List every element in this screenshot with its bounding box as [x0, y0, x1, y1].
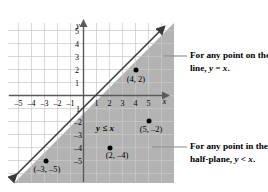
x-axis-label: x — [162, 96, 167, 106]
data-point-neg3-neg5 — [44, 159, 49, 164]
xtick-3: 3 — [121, 99, 125, 108]
annotation-half-plane-prefix: half-plane, — [190, 154, 234, 164]
annotation-half-plane-row1: For any point in the — [190, 140, 268, 153]
label-5-neg2: (5, –2) — [140, 124, 163, 134]
annotation-on-the-line-row1: For any point on the — [190, 49, 268, 62]
xtick--5: –5 — [14, 99, 23, 108]
xtick--2: –2 — [53, 99, 62, 108]
data-point-5-neg2 — [147, 119, 152, 124]
ytick-2: 2 — [75, 66, 79, 75]
ytick-5: 5 — [75, 27, 79, 36]
xtick-5: 5 — [147, 99, 151, 108]
annotation-on-the-line-math: y = x — [209, 63, 228, 73]
figure-container: x y –5 –4 –3 –2 –1 1 2 3 4 5 5 4 3 2 1 1 — [0, 0, 268, 192]
xtick--4: –4 — [27, 99, 36, 108]
label-2-neg4: (2, –4) — [106, 150, 129, 160]
annotation-half-plane-row2: half-plane, y < x. — [190, 153, 268, 166]
ytick--3: –3 — [73, 131, 82, 140]
region-inequality-label: y ≤ x — [95, 123, 114, 133]
xtick-2: 2 — [108, 99, 112, 108]
xtick--3: –3 — [40, 99, 49, 108]
data-point-4-2 — [134, 68, 139, 73]
xtick-4: 4 — [134, 99, 138, 108]
ytick--4: –4 — [73, 144, 82, 153]
ytick-1: 1 — [75, 79, 79, 88]
annotation-half-plane-suffix: . — [253, 154, 255, 164]
annotation-on-the-line: For any point on the line, y = x. — [190, 49, 268, 76]
ytick--5: –5 — [73, 157, 82, 166]
annotation-half-plane-math: y < x — [234, 154, 253, 164]
annotation-on-the-line-row2: line, y = x. — [190, 62, 268, 75]
ytick--2: –2 — [73, 118, 82, 127]
xtick--1: –1 — [66, 99, 75, 108]
annotation-on-the-line-prefix: line, — [190, 63, 209, 73]
label-4-2: (4, 2) — [127, 74, 146, 84]
ytick--1: 1 — [76, 105, 80, 114]
ytick-3: 3 — [75, 53, 79, 62]
xtick-1: 1 — [95, 99, 99, 108]
annotation-on-the-line-suffix: . — [227, 63, 229, 73]
annotation-half-plane: For any point in the half-plane, y < x. — [190, 140, 268, 167]
ytick-4: 4 — [75, 40, 79, 49]
label-neg3-neg5: (–3, –5) — [34, 164, 61, 174]
